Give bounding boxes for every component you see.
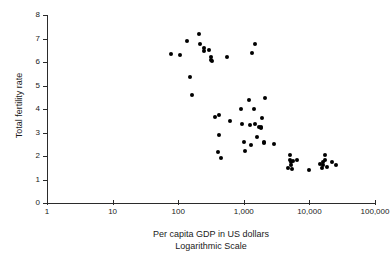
y-tick-mark: [43, 180, 48, 181]
data-point: [259, 126, 263, 130]
data-point: [247, 98, 251, 102]
x-tick-label: 10: [108, 208, 117, 216]
data-point: [213, 115, 217, 119]
x-tick-label: 100: [172, 208, 185, 216]
x-tick-mark: [375, 200, 376, 205]
y-tick-mark: [43, 133, 48, 134]
x-tick-mark: [309, 200, 310, 205]
data-point: [219, 156, 223, 160]
data-point: [228, 119, 232, 123]
data-point: [239, 107, 243, 111]
data-point: [253, 42, 257, 46]
data-point: [198, 42, 202, 46]
x-tick-mark: [47, 200, 48, 205]
x-axis-line: [47, 203, 375, 204]
data-point: [190, 93, 194, 97]
data-point: [290, 167, 294, 171]
data-point: [249, 143, 253, 147]
data-point: [262, 140, 266, 144]
y-tick-label: 0: [20, 199, 40, 207]
data-point: [178, 53, 182, 57]
y-tick-mark: [43, 39, 48, 40]
data-point: [217, 133, 221, 137]
data-point: [295, 158, 299, 162]
data-point: [209, 55, 213, 59]
data-point: [209, 58, 213, 62]
data-point: [334, 163, 338, 167]
data-point: [330, 160, 334, 164]
data-point: [260, 116, 264, 120]
x-tick-label: 1,000: [234, 208, 254, 216]
data-point: [216, 150, 220, 154]
y-tick-mark: [43, 86, 48, 87]
data-point: [202, 49, 206, 53]
data-point: [188, 75, 192, 79]
y-tick-mark: [43, 62, 48, 63]
data-point: [288, 153, 292, 157]
data-point: [248, 123, 252, 127]
data-point: [257, 125, 261, 129]
data-point: [307, 168, 311, 172]
data-point: [253, 122, 257, 126]
x-axis-title: Per capita GDP in US dollars Logarithmic…: [47, 228, 375, 252]
data-point: [255, 135, 259, 139]
x-tick-label: 1: [45, 208, 49, 216]
data-point: [320, 166, 324, 170]
data-point: [263, 96, 267, 100]
data-point: [291, 159, 295, 163]
y-tick-mark: [43, 156, 48, 157]
data-point: [325, 165, 329, 169]
y-tick-label: 8: [20, 11, 40, 19]
data-point: [321, 163, 325, 167]
data-point: [272, 142, 276, 146]
x-tick-mark: [113, 200, 114, 205]
data-point: [197, 32, 201, 36]
data-point: [323, 158, 327, 162]
data-point: [202, 46, 206, 50]
data-point: [240, 122, 244, 126]
data-point: [321, 160, 325, 164]
data-point: [210, 59, 214, 63]
x-axis-title-line2: Logarithmic Scale: [47, 240, 375, 252]
data-point: [289, 163, 293, 167]
data-point: [217, 113, 221, 117]
data-point: [262, 141, 266, 145]
data-point: [286, 166, 290, 170]
scatter-chart: 012345678 1101001,00010,000100,000 Total…: [0, 0, 392, 265]
data-point: [185, 39, 189, 43]
data-point: [323, 153, 327, 157]
data-point: [243, 149, 247, 153]
data-point: [259, 125, 263, 129]
x-tick-label: 100,000: [361, 208, 390, 216]
x-tick-mark: [244, 200, 245, 205]
data-point: [318, 162, 322, 166]
data-point: [252, 107, 256, 111]
y-axis-title: Total fertility rate: [15, 51, 24, 161]
data-point: [225, 55, 229, 59]
data-point: [289, 160, 293, 164]
data-point: [242, 140, 246, 144]
data-point: [169, 52, 173, 56]
y-tick-label: 7: [20, 35, 40, 43]
y-tick-label: 1: [20, 176, 40, 184]
x-axis-title-line1: Per capita GDP in US dollars: [47, 228, 375, 240]
data-point: [207, 48, 211, 52]
x-tick-label: 10,000: [297, 208, 321, 216]
x-tick-mark: [178, 200, 179, 205]
y-tick-mark: [43, 109, 48, 110]
data-point: [288, 158, 292, 162]
y-tick-mark: [43, 15, 48, 16]
data-point: [250, 51, 254, 55]
plot-area: [0, 0, 392, 265]
